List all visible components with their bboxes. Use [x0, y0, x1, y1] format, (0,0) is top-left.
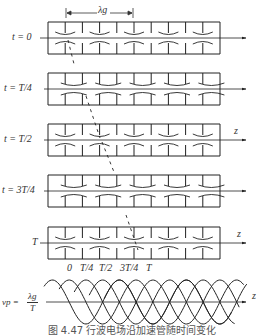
traveling-wave-diagram — [0, 0, 264, 335]
formula-lhs: vp = — [2, 297, 19, 307]
time-tick-T: T — [146, 262, 152, 273]
time-tick-0: 0 — [67, 262, 72, 273]
row-label-t3T4: t = 3T/4 — [2, 184, 35, 195]
time-tick-T2: T/2 — [99, 262, 112, 273]
time-tick-3T4: 3T/4 — [120, 262, 138, 273]
formula-numerator: λg — [28, 291, 36, 301]
row-label-T: T — [32, 236, 38, 247]
formula-denominator: T — [30, 303, 35, 313]
row-label-tT2: t = T/2 — [4, 133, 32, 144]
time-tick-T4: T/4 — [80, 262, 93, 273]
z-axis-label-1: z — [234, 125, 238, 136]
row-label-t0: t = 0 — [12, 31, 32, 42]
z-axis-label-2: z — [237, 228, 241, 239]
figure-caption: 图 4.47 行波电场沿加速管随时间变化 — [0, 322, 264, 335]
wavelength-label: λg — [98, 4, 107, 15]
z-axis-label-3: z — [252, 290, 256, 301]
row-label-tT4: t = T/4 — [4, 82, 32, 93]
